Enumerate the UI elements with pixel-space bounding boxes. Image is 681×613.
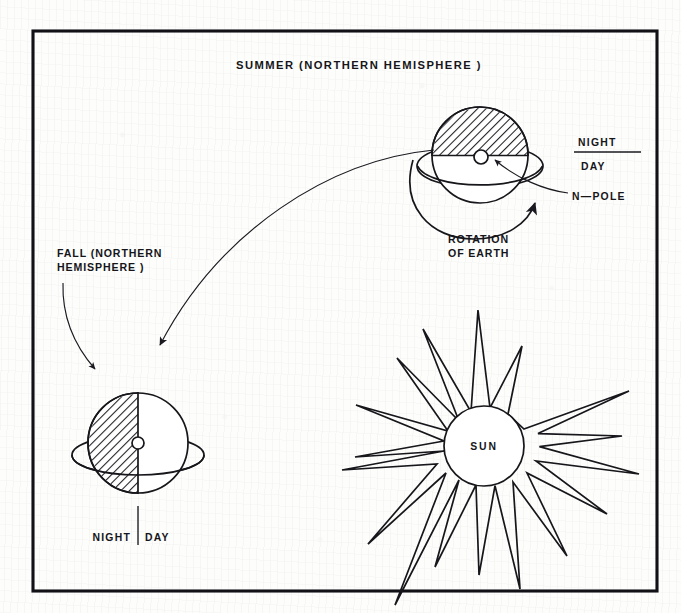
night-day-lower-group: NIGHT DAY: [92, 506, 169, 545]
diagram-canvas: SUMMER (NORTHERN HEMISPHERE ) NIGHT: [0, 0, 681, 613]
summer-title-label: SUMMER (NORTHERN HEMISPHERE ): [236, 59, 482, 71]
fall-label-group: FALL (NORTHERN HEMISPHERE ): [57, 247, 162, 369]
fall-label-line1: FALL (NORTHERN: [57, 247, 162, 259]
fall-label-line2: HEMISPHERE ): [57, 261, 144, 273]
sun-label: SUN: [470, 441, 498, 452]
sun-group: SUN: [342, 310, 639, 605]
fall-label-pointer-arrow: [63, 283, 95, 369]
day-label-upper: DAY: [581, 161, 606, 172]
seasons-diagram-figure: SUMMER (NORTHERN HEMISPHERE ) NIGHT: [0, 0, 681, 613]
north-pole-marker: [474, 150, 488, 164]
n-pole-label: N—POLE: [572, 191, 626, 202]
summer-to-fall-orbit-arrow: [160, 150, 434, 345]
figure-border: [33, 31, 657, 591]
fall-earth-group: [72, 392, 204, 494]
rotation-label-line1: ROTATION: [448, 233, 509, 245]
summer-earth-group: [417, 107, 568, 203]
fall-earth-pole-marker: [132, 437, 144, 449]
night-label-upper: NIGHT: [578, 137, 617, 148]
day-label-lower: DAY: [145, 532, 170, 543]
night-label-lower: NIGHT: [92, 532, 131, 543]
rotation-label-line2: OF EARTH: [448, 247, 509, 259]
night-day-upper-group: NIGHT DAY: [574, 137, 641, 172]
